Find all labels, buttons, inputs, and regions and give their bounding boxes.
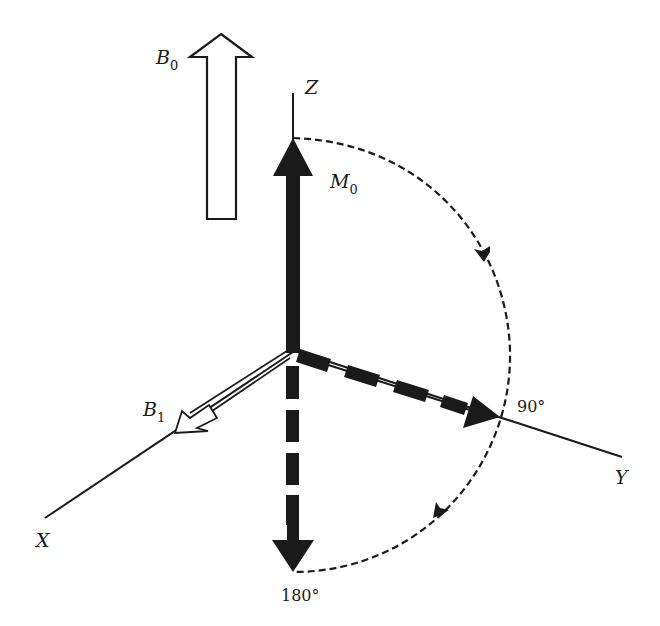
nmr-flip-angle-diagram: B0 Z Y X M0 90° 180° (0, 0, 660, 626)
one-eighty-degree-label: 180° (281, 586, 320, 605)
y-axis-label: Y (615, 466, 630, 488)
x-axis-label: X (34, 529, 51, 551)
ninety-degree-label: 90° (517, 397, 545, 416)
arc-arrowhead-icon (474, 246, 490, 262)
ninety-degree-vector-icon (296, 349, 500, 428)
rotation-path (293, 138, 510, 572)
one-eighty-degree-vector-icon (272, 366, 314, 572)
b0-label: B0 (155, 46, 178, 73)
b1-label: B1 (142, 398, 165, 425)
z-axis-label: Z (304, 76, 319, 98)
x-axis (45, 352, 293, 518)
b0-arrow-icon (190, 34, 252, 219)
b1-arrow-icon (175, 349, 290, 433)
m0-arrow-icon (273, 138, 313, 353)
m0-label: M0 (329, 170, 358, 197)
